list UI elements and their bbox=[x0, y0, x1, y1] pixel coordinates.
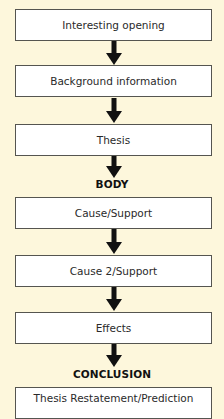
node-label: Thesis bbox=[97, 134, 130, 146]
node-cause-2-support: Cause 2/Support bbox=[15, 255, 212, 287]
section-label-conclusion: CONCLUSION bbox=[0, 368, 224, 380]
down-arrow-icon bbox=[106, 156, 122, 178]
down-arrow-icon bbox=[106, 287, 122, 311]
node-label: Cause 2/Support bbox=[70, 265, 157, 277]
node-interesting-opening: Interesting opening bbox=[15, 9, 212, 41]
node-background-information: Background information bbox=[15, 65, 212, 97]
section-label-body: BODY bbox=[0, 178, 224, 190]
node-label: Cause/Support bbox=[75, 207, 152, 219]
node-label: Effects bbox=[96, 322, 132, 334]
node-label: Thesis Restatement/Prediction bbox=[34, 392, 194, 404]
node-thesis: Thesis bbox=[15, 124, 212, 156]
node-thesis-restatement: Thesis Restatement/Prediction bbox=[15, 387, 212, 419]
down-arrow-icon bbox=[106, 229, 122, 254]
section-label-introduction: INTRODUCTION bbox=[0, 0, 224, 2]
down-arrow-icon bbox=[106, 344, 122, 367]
down-arrow-icon bbox=[106, 41, 122, 65]
node-cause-support: Cause/Support bbox=[15, 197, 212, 229]
node-label: Background information bbox=[50, 75, 177, 87]
node-label: Interesting opening bbox=[62, 19, 164, 31]
node-effects: Effects bbox=[15, 312, 212, 344]
down-arrow-icon bbox=[106, 98, 122, 123]
